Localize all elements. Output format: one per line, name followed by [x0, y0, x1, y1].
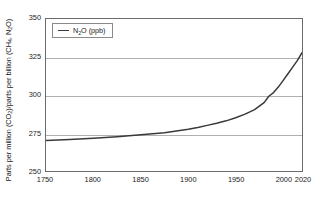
plot-area: N2O (ppb) — [45, 18, 303, 172]
series-path-n2o — [46, 53, 302, 141]
x-tick-label-1950: 1950 — [228, 176, 244, 183]
y-axis-title: Parts per million (CO2)/parts per billio… — [0, 0, 16, 200]
legend-label-n2o: N2O (ppb) — [73, 27, 105, 34]
y-tick-label-275: 275 — [16, 130, 41, 137]
y-tick-label-300: 300 — [16, 91, 41, 98]
y-axis-tick-labels: 250275300325350 — [16, 0, 41, 200]
chart-figure: Parts per million (CO2)/parts per billio… — [0, 0, 321, 200]
x-axis-tick-labels: 1750180018501900195020002020 — [0, 176, 321, 190]
x-tick-label-1800: 1800 — [85, 176, 101, 183]
legend-line-swatch-n2o — [58, 30, 69, 31]
chart-legend: N2O (ppb) — [52, 23, 113, 38]
y-axis-title-text: Parts per million (CO2)/parts per billio… — [4, 19, 13, 182]
series-line-n2o — [46, 19, 302, 171]
x-tick-label-1750: 1750 — [37, 176, 53, 183]
x-tick-label-2000: 2000 — [276, 176, 292, 183]
x-tick-label-1900: 1900 — [180, 176, 196, 183]
x-tick-label-1850: 1850 — [132, 176, 148, 183]
y-tick-label-325: 325 — [16, 53, 41, 60]
x-tick-label-2020: 2020 — [295, 176, 311, 183]
y-tick-label-350: 350 — [16, 14, 41, 21]
